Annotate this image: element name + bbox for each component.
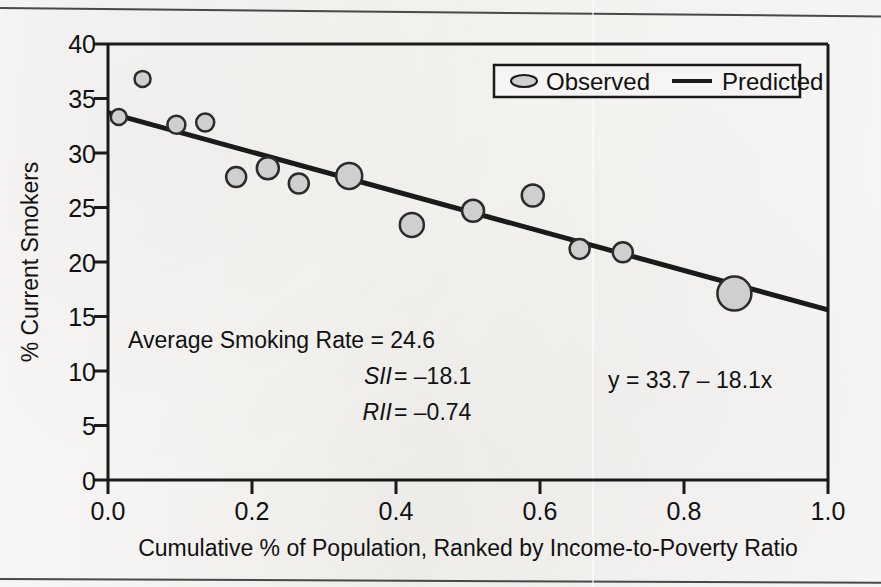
x-tick-label-2: 0.4 [379, 497, 414, 525]
x-tick-label-3: 0.6 [523, 497, 558, 525]
y-tick-label-30: 30 [68, 140, 96, 168]
data-point-0 [111, 109, 127, 125]
chart-figure: 40 35 30 25 20 15 10 5 0 0.0 0.2 0.4 0.6… [0, 0, 881, 587]
x-axis-tick-labels: 0.0 0.2 0.4 0.6 0.8 1.0 [91, 497, 846, 525]
data-point-9 [462, 200, 484, 222]
annotation-equation: y = 33.7 – 18.1x [608, 367, 773, 393]
legend-observed-marker-icon [511, 75, 537, 87]
x-tick-label-0: 0.0 [91, 497, 126, 525]
x-tick-label-4: 0.8 [667, 497, 702, 525]
data-point-8 [400, 213, 424, 237]
chart-canvas: 40 35 30 25 20 15 10 5 0 0.0 0.2 0.4 0.6… [0, 0, 881, 587]
data-point-2 [167, 116, 185, 134]
data-point-13 [717, 277, 751, 311]
y-axis-tick-labels: 40 35 30 25 20 15 10 5 0 [68, 30, 96, 495]
data-point-6 [289, 174, 309, 194]
data-point-12 [613, 242, 633, 262]
data-point-5 [257, 157, 279, 179]
y-tick-label-35: 35 [68, 85, 96, 113]
data-point-11 [570, 239, 590, 259]
legend: Observed Predicted [494, 65, 823, 97]
y-tick-label-25: 25 [68, 194, 96, 222]
data-point-1 [135, 71, 151, 87]
y-tick-label-40: 40 [68, 30, 96, 58]
x-axis-title: Cumulative % of Population, Ranked by In… [138, 535, 798, 561]
annotation-sii: SII = –18.1 [364, 363, 472, 389]
y-axis-title: % Current Smokers [17, 162, 43, 363]
y-tick-label-20: 20 [68, 249, 96, 277]
annotation-rii-value: = –0.74 [394, 399, 472, 425]
annotation-rii: RII = –0.74 [363, 399, 472, 425]
svg-text:RII: RII [363, 399, 393, 425]
y-tick-label-0: 0 [82, 467, 96, 495]
y-tick-label-15: 15 [68, 303, 96, 331]
annotation-sii-value: = –18.1 [394, 363, 471, 389]
annotation-sii-name: SII [364, 363, 393, 389]
y-tick-label-5: 5 [82, 412, 96, 440]
svg-text:SII: SII [364, 363, 393, 389]
observed-data-points [111, 71, 752, 311]
legend-observed-label: Observed [546, 68, 650, 95]
y-tick-label-10: 10 [68, 358, 96, 386]
annotation-rii-name: RII [363, 399, 393, 425]
data-point-7 [336, 163, 362, 189]
x-axis-ticks [108, 480, 828, 494]
legend-predicted-label: Predicted [722, 68, 823, 95]
data-point-10 [522, 185, 544, 207]
x-tick-label-1: 0.2 [235, 497, 270, 525]
annotation-average-smoking-rate: Average Smoking Rate = 24.6 [128, 327, 435, 353]
x-tick-label-5: 1.0 [811, 497, 846, 525]
y-axis-ticks [94, 44, 108, 480]
data-point-4 [226, 167, 246, 187]
data-point-3 [196, 113, 214, 131]
